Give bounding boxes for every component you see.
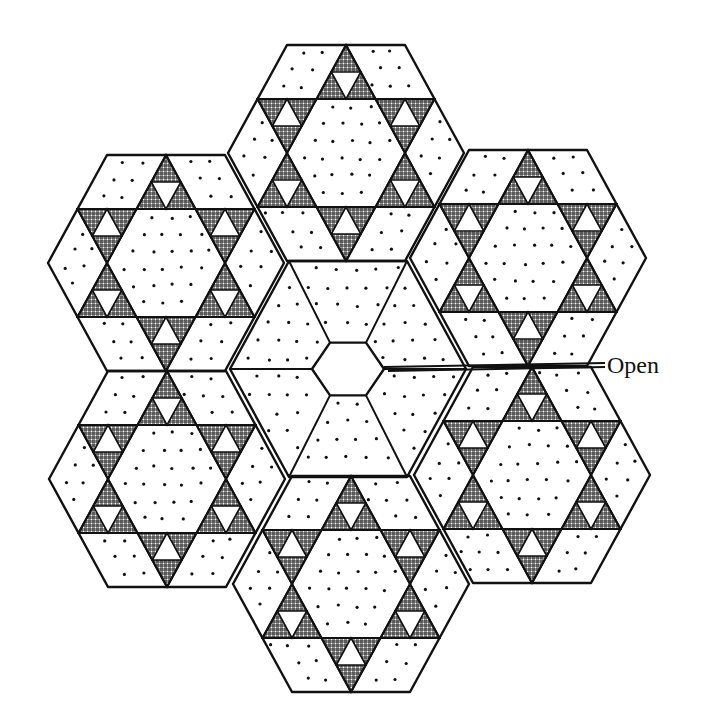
stipple-dot xyxy=(341,192,344,195)
stipple-dot xyxy=(584,551,587,554)
stipple-dot xyxy=(398,66,401,69)
stipple-dot xyxy=(275,413,278,416)
stipple-dot xyxy=(255,374,258,377)
stipple-dot xyxy=(123,268,126,271)
stipple-dot xyxy=(394,570,397,573)
stipple-dot xyxy=(131,249,134,252)
stipple-dot xyxy=(503,262,506,265)
stipple-dot xyxy=(368,174,371,177)
stipple-dot xyxy=(313,174,316,177)
stipple-dot xyxy=(143,516,146,519)
stipple-dot xyxy=(307,286,310,289)
stipple-dot xyxy=(570,317,573,320)
stipple-dot xyxy=(259,265,262,268)
stipple-dot xyxy=(316,605,319,608)
stipple-dot xyxy=(307,677,310,680)
stipple-dot xyxy=(308,587,311,590)
stipple-dot xyxy=(81,233,84,236)
stipple-dot xyxy=(346,553,349,556)
stipple-dot xyxy=(496,551,499,554)
stipple-dot xyxy=(411,339,414,342)
stipple-dot xyxy=(305,393,308,396)
stipple-dot xyxy=(346,418,349,421)
stipple-dot xyxy=(566,479,569,482)
stipple-dot xyxy=(325,456,328,459)
stipple-dot xyxy=(300,245,303,248)
stipple-dot xyxy=(482,191,485,194)
stipple-dot xyxy=(189,283,192,286)
stipple-dot xyxy=(152,432,155,435)
stipple-dot xyxy=(270,250,273,253)
stipple-dot xyxy=(143,233,146,236)
stipple-dot xyxy=(130,340,133,343)
stipple-dot xyxy=(208,160,211,163)
stipple-dot xyxy=(484,262,487,265)
stipple-dot xyxy=(613,277,616,280)
stipple-dot xyxy=(438,156,441,159)
stipple-dot xyxy=(595,535,598,538)
stipple-dot xyxy=(73,247,76,250)
stipple-dot xyxy=(486,533,489,536)
stipple-dot xyxy=(433,338,436,341)
stipple-dot xyxy=(295,340,298,343)
stipple-dot xyxy=(483,319,486,322)
stipple-dot xyxy=(190,500,193,503)
stipple-dot xyxy=(189,160,192,163)
stipple-dot xyxy=(82,481,85,484)
stipple-dot xyxy=(356,606,359,609)
stipple-dot xyxy=(356,403,359,406)
stipple-dot xyxy=(478,550,481,553)
stipple-dot xyxy=(454,242,457,245)
stipple-dot xyxy=(433,242,436,245)
stipple-dot xyxy=(371,248,374,251)
stipple-dot xyxy=(306,322,309,325)
stipple-dot xyxy=(532,280,535,283)
stipple-dot xyxy=(296,411,299,414)
stipple-dot xyxy=(119,357,122,360)
stipple-dot xyxy=(434,412,437,415)
stipple-dot xyxy=(200,233,203,236)
stipple-dot xyxy=(251,465,254,468)
stipple-dot xyxy=(241,482,244,485)
stipple-dot xyxy=(383,555,386,558)
stipple-dot xyxy=(248,393,251,396)
stipple-dot xyxy=(605,478,608,481)
stipple-dot xyxy=(221,556,224,559)
stipple-dot xyxy=(547,513,550,516)
stipple-dot xyxy=(282,84,285,87)
stipple-dot xyxy=(514,279,517,282)
stipple-dot xyxy=(286,393,289,396)
stipple-dot xyxy=(365,420,368,423)
stipple-dot xyxy=(400,229,403,232)
central-crease xyxy=(289,261,330,343)
stipple-dot xyxy=(142,483,145,486)
stipple-dot xyxy=(378,158,381,161)
stipple-dot xyxy=(561,261,564,264)
stipple-dot xyxy=(422,393,425,396)
stipple-dot xyxy=(135,467,138,470)
stipple-dot xyxy=(395,643,398,646)
stipple-dot xyxy=(565,389,568,392)
stipple-dot xyxy=(373,606,376,609)
stipple-dot xyxy=(552,211,555,214)
stipple-dot xyxy=(269,643,272,646)
stipple-dot xyxy=(537,429,540,432)
stipple-dot xyxy=(518,497,521,500)
stipple-dot xyxy=(199,339,202,342)
stipple-dot xyxy=(190,432,193,435)
stipple-dot xyxy=(315,302,318,305)
stipple-dot xyxy=(143,268,146,271)
stipple-dot xyxy=(228,538,231,541)
stipple-dot xyxy=(305,357,308,360)
stipple-dot xyxy=(385,660,388,663)
stipple-dot xyxy=(268,359,271,362)
stipple-dot xyxy=(404,321,407,324)
stipple-dot xyxy=(336,402,339,405)
stipple-dot xyxy=(345,587,348,590)
stipple-dot xyxy=(239,265,242,268)
stipple-dot xyxy=(314,139,317,142)
stipple-dot xyxy=(113,555,116,558)
stipple-dot xyxy=(375,679,378,682)
stipple-dot xyxy=(533,244,536,247)
stipple-dot xyxy=(505,297,508,300)
